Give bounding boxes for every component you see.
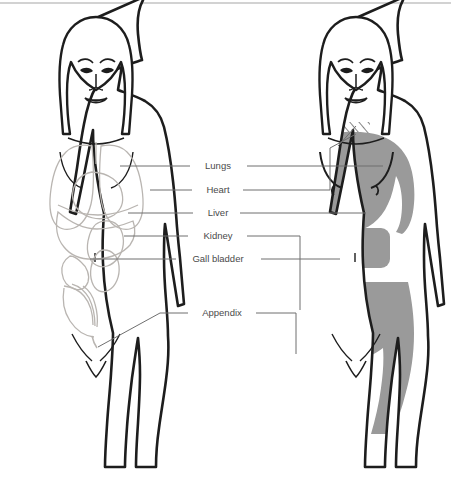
label-appendix: Appendix: [202, 307, 242, 318]
label-liver: Liver: [208, 207, 229, 218]
right-groin: [346, 361, 366, 377]
diagram-canvas: Lungs Heart Liver Kidney Gall bladder Ap…: [0, 0, 451, 487]
left-hip-crease-left: [72, 334, 92, 361]
right-figure-pain-view: [298, 0, 444, 487]
label-layer: Lungs Heart Liver Kidney Gall bladder Ap…: [192, 160, 243, 318]
referred-pain-diagram: Lungs Heart Liver Kidney Gall bladder Ap…: [0, 0, 451, 487]
zone-groin-hatched-band: [300, 288, 370, 370]
leader-appendix-right: [256, 313, 296, 354]
left-figure-organ-view: [50, 0, 184, 467]
zone-lower-abdomen-pelvis-gray: [298, 282, 414, 434]
right-hip-crease-left: [332, 334, 352, 361]
left-groin: [86, 361, 106, 377]
colon-outline: [63, 284, 97, 337]
label-lungs: Lungs: [205, 160, 231, 171]
leader-kidney-right: [247, 236, 300, 310]
appendix-outline: [92, 336, 97, 348]
label-heart: Heart: [206, 184, 230, 195]
zone-thigh-left-remnant: [306, 468, 326, 487]
zone-chest-breast-gray: [307, 132, 415, 234]
label-kidney: Kidney: [203, 230, 232, 241]
label-gall-bladder: Gall bladder: [192, 253, 243, 264]
zone-thigh-right-remnant: [396, 466, 416, 487]
